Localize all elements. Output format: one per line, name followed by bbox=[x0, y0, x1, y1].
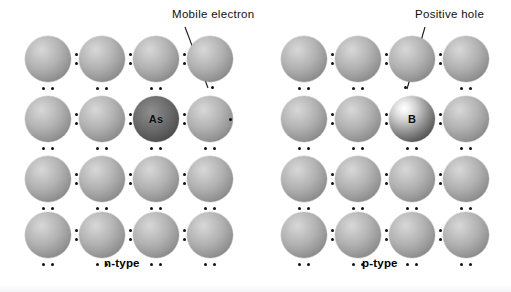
lone-pair-dot bbox=[42, 147, 45, 150]
bond-dot bbox=[331, 173, 334, 176]
lattice-atom bbox=[25, 156, 71, 202]
lone-pair-horizontal bbox=[96, 87, 109, 91]
lattice-atom bbox=[25, 36, 71, 82]
caption-n-type: n-type bbox=[104, 257, 140, 269]
lattice-atom bbox=[25, 212, 71, 258]
dopant-atom-symbol: B bbox=[389, 96, 435, 142]
lone-pair-dot bbox=[96, 207, 99, 210]
lone-pair-horizontal bbox=[204, 207, 217, 211]
lone-pair-horizontal bbox=[150, 207, 163, 211]
lone-pair-dot bbox=[159, 207, 162, 210]
lattice-atom bbox=[335, 212, 381, 258]
lone-pair-dot bbox=[415, 147, 418, 150]
lone-pair-dot bbox=[361, 263, 364, 266]
bond-dot bbox=[331, 53, 334, 56]
lone-pair-dot bbox=[204, 207, 207, 210]
semiconductor-doping-figure: Mobile electron n-type As Positive hole … bbox=[0, 0, 511, 292]
bond-dot bbox=[129, 53, 132, 56]
lattice-atom bbox=[443, 212, 489, 258]
bond-dot bbox=[75, 113, 78, 116]
bond-dot bbox=[183, 173, 186, 176]
lone-pair-dot bbox=[204, 147, 207, 150]
lattice-atom bbox=[133, 36, 179, 82]
lattice-atom bbox=[335, 156, 381, 202]
lone-pair-horizontal bbox=[406, 207, 419, 211]
lone-pair-dot bbox=[105, 87, 108, 90]
panel-n-type: Mobile electron n-type As bbox=[0, 0, 255, 292]
lattice-atom bbox=[25, 96, 71, 142]
bond-dot bbox=[331, 62, 334, 65]
lone-pair-dot bbox=[469, 263, 472, 266]
dopant-atom-symbol: As bbox=[133, 96, 179, 142]
lone-pair-dot bbox=[415, 263, 418, 266]
bond-dot bbox=[75, 62, 78, 65]
bond-dot bbox=[183, 62, 186, 65]
lone-pair-dot bbox=[460, 147, 463, 150]
bond-dot bbox=[183, 182, 186, 185]
lattice-atom bbox=[79, 96, 125, 142]
bond-dot bbox=[75, 53, 78, 56]
lattice-atom bbox=[443, 36, 489, 82]
lattice-atom bbox=[443, 96, 489, 142]
bond-dot bbox=[183, 229, 186, 232]
lone-pair-dot bbox=[460, 207, 463, 210]
lone-pair-horizontal bbox=[42, 207, 55, 211]
dopant-atom-as: As bbox=[133, 96, 179, 142]
lone-pair-dot bbox=[469, 207, 472, 210]
lone-pair-dot bbox=[42, 207, 45, 210]
bond-dot bbox=[439, 62, 442, 65]
lone-pair-dot bbox=[307, 87, 310, 90]
bond-dot bbox=[385, 53, 388, 56]
bond-dot bbox=[75, 122, 78, 125]
bond-dot bbox=[129, 122, 132, 125]
lone-pair-horizontal bbox=[96, 263, 109, 267]
bond-dot bbox=[75, 173, 78, 176]
lone-pair-horizontal bbox=[298, 207, 311, 211]
bond-dot bbox=[331, 238, 334, 241]
lone-pair-dot bbox=[105, 147, 108, 150]
lattice-atom bbox=[187, 96, 233, 142]
lattice-atom bbox=[79, 212, 125, 258]
bond-dot bbox=[439, 238, 442, 241]
bond-dot bbox=[385, 62, 388, 65]
bond-dot bbox=[75, 238, 78, 241]
lone-pair-horizontal bbox=[150, 147, 163, 151]
page-edge-smudge bbox=[0, 285, 511, 292]
bond-dot bbox=[385, 182, 388, 185]
lone-pair-dot bbox=[307, 207, 310, 210]
lone-pair-horizontal bbox=[460, 147, 473, 151]
lone-pair-dot bbox=[105, 207, 108, 210]
bond-dot bbox=[75, 229, 78, 232]
lone-pair-dot bbox=[307, 263, 310, 266]
lone-pair-dot bbox=[150, 87, 153, 90]
lattice-atom bbox=[281, 96, 327, 142]
lone-pair-horizontal bbox=[460, 207, 473, 211]
lattice-atom bbox=[389, 156, 435, 202]
lone-pair-dot bbox=[96, 87, 99, 90]
lattice-atom bbox=[187, 212, 233, 258]
bond-dot bbox=[129, 62, 132, 65]
lone-pair-dot bbox=[213, 207, 216, 210]
lone-pair-dot bbox=[159, 87, 162, 90]
lone-pair-dot bbox=[352, 87, 355, 90]
lone-pair-dot bbox=[460, 263, 463, 266]
lone-pair-dot bbox=[51, 207, 54, 210]
bond-dot bbox=[183, 113, 186, 116]
lone-pair-horizontal bbox=[204, 147, 217, 151]
dopant-atom-b: B bbox=[389, 96, 435, 142]
lone-pair-dot bbox=[42, 87, 45, 90]
bond-dot bbox=[331, 182, 334, 185]
bond-dot bbox=[385, 238, 388, 241]
lone-pair-horizontal bbox=[298, 263, 311, 267]
lone-pair-dot bbox=[298, 147, 301, 150]
lone-pair-horizontal bbox=[406, 263, 419, 267]
lone-pair-horizontal bbox=[150, 87, 163, 91]
lone-pair-horizontal bbox=[406, 147, 419, 151]
bond-dot bbox=[183, 53, 186, 56]
bond-dot bbox=[439, 229, 442, 232]
lone-pair-dot bbox=[469, 147, 472, 150]
lone-pair-horizontal bbox=[42, 263, 55, 267]
lone-pair-horizontal bbox=[96, 207, 109, 211]
bond-dot bbox=[129, 238, 132, 241]
lattice-atom bbox=[443, 156, 489, 202]
